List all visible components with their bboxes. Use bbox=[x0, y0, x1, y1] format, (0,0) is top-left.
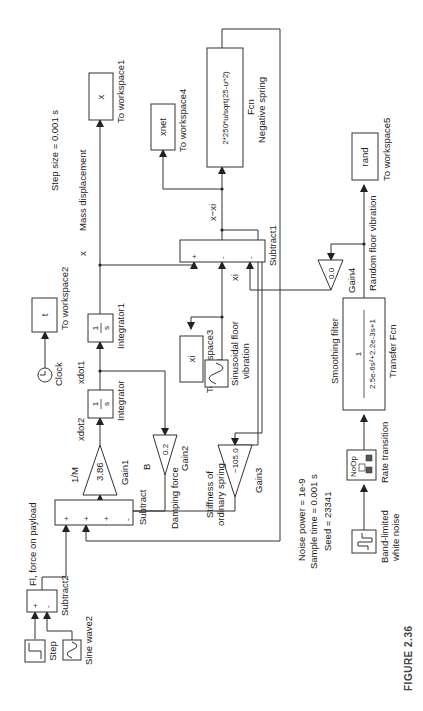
xdot2-label: xdot2 bbox=[75, 418, 86, 441]
gain4-block[interactable]: 0.0 Gain4 bbox=[318, 260, 357, 293]
sample-time-note: Sample time = 0.001 s bbox=[308, 474, 319, 569]
transfer-fcn-block[interactable]: 1 2.5e-6s²+2.2e-3s+1 Smoothing filter Tr… bbox=[329, 298, 398, 410]
svg-text:Sinusoidal floor: Sinusoidal floor bbox=[229, 321, 240, 386]
svg-text:+: + bbox=[102, 516, 111, 521]
svg-text:−105.0: −105.0 bbox=[231, 448, 240, 473]
svg-text:Band-limited: Band-limited bbox=[379, 510, 390, 563]
noise-block[interactable]: Band-limited white noise bbox=[352, 510, 401, 563]
svg-text:To workspace5: To workspace5 bbox=[381, 118, 392, 181]
seed-note: Seed = 23341 bbox=[322, 492, 333, 551]
step-size-note: Step size = 0.001 s bbox=[49, 110, 60, 191]
svg-text:-: - bbox=[123, 518, 132, 521]
svg-text:Rate transition: Rate transition bbox=[379, 422, 390, 483]
force-label: Fl, force on payload bbox=[27, 503, 38, 586]
svg-text:Clock: Clock bbox=[53, 362, 64, 386]
svg-text:xi: xi bbox=[186, 356, 197, 363]
sine-wave2-label: Sine wave2 bbox=[83, 616, 94, 665]
svg-text:xnet: xnet bbox=[157, 118, 168, 136]
simulink-diagram: Step Sine wave2 + - Subtract2 Fl, force … bbox=[0, 0, 423, 711]
to-workspace5-block[interactable]: rand To workspace5 bbox=[352, 118, 392, 181]
svg-text:white noise: white noise bbox=[390, 513, 401, 562]
svg-text:+: + bbox=[31, 603, 40, 608]
svg-text:+: + bbox=[190, 254, 199, 259]
svg-text:To workspace4: To workspace4 bbox=[177, 89, 188, 152]
svg-text:Gain2: Gain2 bbox=[179, 446, 190, 471]
negative-spring-label: Negative spring bbox=[256, 77, 267, 143]
figure-canvas: Step Sine wave2 + - Subtract2 Fl, force … bbox=[0, 0, 423, 711]
svg-text:s: s bbox=[102, 326, 111, 330]
damping-force-label: Damping force bbox=[169, 467, 180, 529]
svg-text:Stiffness of: Stiffness of bbox=[204, 471, 215, 518]
svg-text:-: - bbox=[246, 256, 255, 259]
svg-text:t: t bbox=[39, 313, 50, 316]
svg-text:2.5e-6s²+2.2e-3s+1: 2.5e-6s²+2.2e-3s+1 bbox=[368, 319, 377, 389]
random-floor-vibration-label: Random floor vibration bbox=[367, 195, 378, 291]
svg-text:0.0: 0.0 bbox=[327, 267, 336, 279]
subtract-label: Subtract bbox=[137, 489, 148, 525]
step-block[interactable]: Step bbox=[25, 640, 58, 662]
step-label: Step bbox=[47, 641, 58, 661]
to-workspace1-block[interactable]: x To workspace1 bbox=[89, 60, 126, 123]
svg-text:NoOp: NoOp bbox=[349, 456, 358, 477]
svg-text:ordinary spring: ordinary spring bbox=[215, 463, 226, 526]
svg-text:Gain3: Gain3 bbox=[253, 468, 264, 493]
sine-wave2-block[interactable]: Sine wave2 bbox=[63, 616, 94, 665]
subtract1-block[interactable]: + - - Subtract1 x−xi xi bbox=[180, 204, 278, 281]
svg-text:-: - bbox=[218, 256, 227, 259]
svg-text:+: + bbox=[82, 516, 91, 521]
svg-text:2*250*u/sqrt(25-u^2): 2*250*u/sqrt(25-u^2) bbox=[221, 71, 230, 145]
svg-text:-: - bbox=[43, 605, 52, 608]
svg-text:1: 1 bbox=[354, 351, 363, 356]
b-label: B bbox=[141, 464, 152, 470]
smoothing-filter-label: Smoothing filter bbox=[329, 318, 340, 384]
svg-text:3.86: 3.86 bbox=[94, 463, 105, 482]
svg-text:Integrator: Integrator bbox=[115, 380, 126, 421]
svg-text:1: 1 bbox=[91, 401, 100, 406]
rate-transition-block[interactable]: NoOp Rate transition bbox=[347, 422, 390, 483]
rotated-diagram: Step Sine wave2 + - Subtract2 Fl, force … bbox=[0, 0, 423, 711]
clock-block[interactable]: Clock bbox=[38, 362, 64, 386]
noise-power-note: Noise power = 1e-9 bbox=[296, 478, 307, 561]
svg-text:vibration: vibration bbox=[240, 343, 251, 379]
gain1-block[interactable]: 3.86 1/M Gain1 bbox=[69, 445, 130, 495]
svg-text:To workspace2: To workspace2 bbox=[59, 267, 70, 330]
svg-text:x: x bbox=[95, 94, 106, 99]
svg-text:To workspace1: To workspace1 bbox=[115, 60, 126, 123]
svg-text:Subtract1: Subtract1 bbox=[267, 225, 278, 266]
mass-displacement-label: Mass displacement bbox=[77, 149, 88, 231]
svg-text:s: s bbox=[102, 402, 111, 406]
xi-label: xi bbox=[229, 274, 240, 281]
to-workspace4-block[interactable]: xnet To workspace4 bbox=[151, 89, 188, 152]
xdot1-label: xdot1 bbox=[75, 361, 86, 384]
svg-text:Gain4: Gain4 bbox=[346, 268, 357, 293]
svg-text:Gain1: Gain1 bbox=[119, 460, 130, 485]
to-workspace2-block[interactable]: t To workspace2 bbox=[32, 267, 70, 332]
svg-text:Integrator1: Integrator1 bbox=[115, 303, 126, 349]
x-symbol-label: x bbox=[77, 251, 88, 256]
fcn-block[interactable]: 2*250*u/sqrt(25-u^2) Fcn Negative spring bbox=[207, 48, 267, 167]
svg-text:1: 1 bbox=[91, 325, 100, 330]
subtract2-label: Subtract2 bbox=[59, 575, 70, 616]
x-minus-xi-label: x−xi bbox=[207, 204, 218, 221]
svg-text:Transfer Fcn: Transfer Fcn bbox=[387, 325, 398, 379]
svg-text:+: + bbox=[62, 516, 71, 521]
figure-caption: FIGURE 2.36 bbox=[403, 625, 414, 691]
svg-text:Fcn: Fcn bbox=[245, 99, 256, 115]
gain3-block[interactable]: −105.0 Gain3 Stiffness of ordinary sprin… bbox=[204, 445, 264, 526]
inverse-mass-label: 1/M bbox=[69, 467, 80, 483]
svg-text:rand: rand bbox=[359, 147, 370, 166]
svg-text:0.2: 0.2 bbox=[161, 443, 170, 455]
